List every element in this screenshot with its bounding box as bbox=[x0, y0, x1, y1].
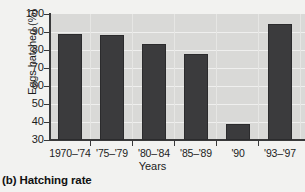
bar-1970-74 bbox=[58, 34, 82, 140]
vertical-gridline-3 bbox=[174, 14, 175, 140]
y-tick-90 bbox=[44, 32, 49, 33]
y-tick-label-50: 50 bbox=[2, 97, 44, 109]
gridline-70 bbox=[50, 68, 305, 69]
vertical-gridline-5 bbox=[258, 14, 259, 140]
y-tick-70 bbox=[44, 68, 49, 69]
y-tick-100 bbox=[44, 14, 49, 15]
bar-93-97 bbox=[268, 24, 292, 140]
y-tick-30 bbox=[44, 140, 49, 141]
y-tick-label-70: 70 bbox=[2, 61, 44, 73]
y-tick-label-30: 30 bbox=[2, 133, 44, 145]
figure-caption: (b) Hatching rate bbox=[2, 174, 92, 186]
vertical-gridline-2 bbox=[132, 14, 133, 140]
y-tick-label-80: 80 bbox=[2, 43, 44, 55]
gridline-80 bbox=[50, 50, 305, 51]
x-tick-label-93-97: '93–'97 bbox=[253, 147, 305, 159]
gridline-40 bbox=[50, 122, 305, 123]
y-tick-50 bbox=[44, 104, 49, 105]
gridline-90 bbox=[50, 32, 305, 33]
bar-90 bbox=[226, 124, 250, 140]
gridline-50 bbox=[50, 104, 305, 105]
x-axis-line bbox=[49, 139, 305, 141]
x-tick-2 bbox=[132, 141, 133, 146]
bar-80-84 bbox=[142, 44, 166, 140]
y-tick-label-40: 40 bbox=[2, 115, 44, 127]
y-axis-line bbox=[49, 13, 51, 141]
bar-85-89 bbox=[184, 54, 208, 140]
y-tick-label-60: 60 bbox=[2, 79, 44, 91]
vertical-gridline-1 bbox=[90, 14, 91, 140]
y-tick-60 bbox=[44, 86, 49, 87]
bar-75-79 bbox=[100, 35, 124, 140]
x-tick-3 bbox=[174, 141, 175, 146]
y-tick-label-100: 100 bbox=[2, 7, 44, 19]
vertical-gridline-6 bbox=[300, 14, 301, 140]
plot-area bbox=[50, 14, 305, 140]
y-tick-80 bbox=[44, 50, 49, 51]
gridline-60 bbox=[50, 86, 305, 87]
x-tick-1 bbox=[90, 141, 91, 146]
y-tick-label-90: 90 bbox=[2, 25, 44, 37]
x-tick-5 bbox=[258, 141, 259, 146]
vertical-gridline-4 bbox=[216, 14, 217, 140]
x-axis-title: Years bbox=[50, 160, 255, 172]
x-tick-4 bbox=[216, 141, 217, 146]
hatching-rate-bar-chart: Eggs hatched (%) 100 90 80 70 60 50 40 3… bbox=[0, 0, 305, 192]
y-tick-40 bbox=[44, 122, 49, 123]
